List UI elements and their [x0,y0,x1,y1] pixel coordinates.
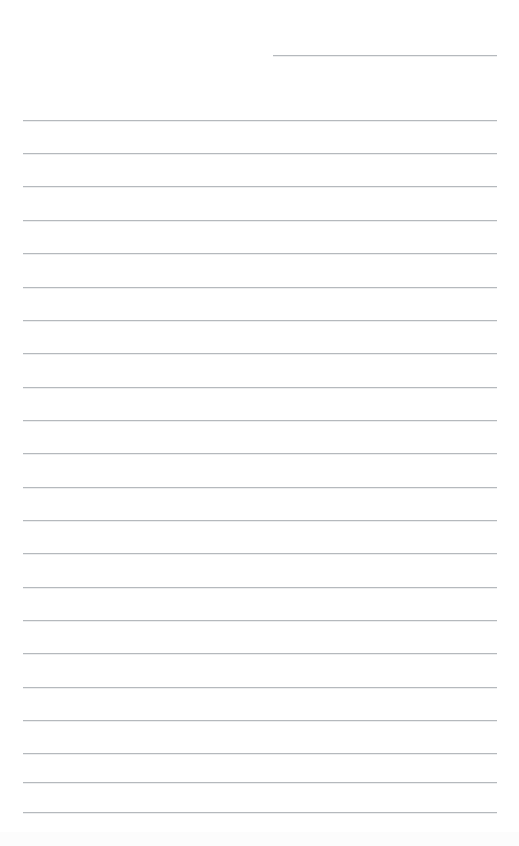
write-zone[interactable] [23,103,497,119]
ruled-line [23,553,497,554]
ruled-line [23,653,497,654]
ruled-line [23,753,497,754]
paper-edge-artifact [0,832,519,846]
ruled-line [23,186,497,187]
ruled-line [23,782,497,783]
ruled-line [23,687,497,688]
write-zone[interactable] [23,169,497,185]
ruled-line [23,620,497,621]
rule-layer [0,0,519,846]
ruled-line [23,453,497,454]
ruled-line [23,253,497,254]
ruled-line [23,220,497,221]
write-zone[interactable] [23,603,497,619]
write-zone[interactable] [23,203,497,219]
write-zone[interactable] [23,795,497,811]
ruled-line [23,720,497,721]
header-rule [273,55,497,56]
write-zone[interactable] [23,503,497,519]
write-zone[interactable] [23,336,497,352]
write-zone[interactable] [23,570,497,586]
ruled-line [23,320,497,321]
write-zone[interactable] [23,370,497,386]
ruled-line [23,353,497,354]
write-zone[interactable] [23,470,497,486]
write-zone[interactable] [23,736,497,752]
write-zone[interactable] [23,436,497,452]
ruled-line [23,812,497,813]
ruled-line [23,287,497,288]
write-zone[interactable] [23,670,497,686]
notepaper-page [0,0,519,846]
write-zone[interactable] [23,765,497,781]
write-zone[interactable] [23,703,497,719]
write-zone[interactable] [23,536,497,552]
ruled-line [23,153,497,154]
ruled-line [23,487,497,488]
write-zone[interactable] [23,270,497,286]
write-zone[interactable] [23,636,497,652]
write-zone[interactable] [23,403,497,419]
write-zone[interactable] [23,136,497,152]
write-zone[interactable] [23,236,497,252]
write-zone[interactable] [23,303,497,319]
ruled-line [23,420,497,421]
header-write-zone[interactable] [273,38,497,54]
ruled-line [23,120,497,121]
ruled-line [23,387,497,388]
ruled-line [23,520,497,521]
ruled-line [23,587,497,588]
